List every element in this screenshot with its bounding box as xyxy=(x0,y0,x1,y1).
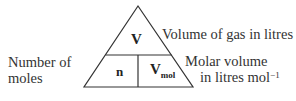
label-volume: Volume of gas in litres xyxy=(162,26,293,42)
label-moles-line2: moles xyxy=(8,70,43,86)
label-moles-line1: Number of xyxy=(8,54,71,70)
label-molar-volume-units: in litres mol xyxy=(200,69,270,85)
label-molar-volume-line2: in litres mol−1 xyxy=(200,69,280,85)
molar-volume-symbol: Vmol xyxy=(150,61,175,80)
volume-symbol: V xyxy=(131,31,142,48)
formula-triangle xyxy=(0,0,296,101)
moles-symbol: n xyxy=(116,64,123,80)
label-molar-volume-exponent: −1 xyxy=(270,70,280,80)
label-molar-volume-line1: Molar volume xyxy=(185,53,268,69)
molar-volume-symbol-sub: mol xyxy=(161,70,176,80)
molar-volume-symbol-main: V xyxy=(150,61,161,77)
